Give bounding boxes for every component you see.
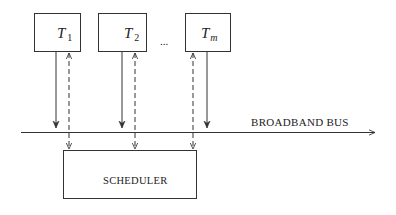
ellipsis: ...	[160, 35, 169, 47]
terminal-tm: Tm	[186, 14, 231, 52]
terminal-t2: T2	[99, 14, 147, 52]
scheduler: SCHEDULER	[64, 151, 197, 199]
scheduler-label: SCHEDULER	[103, 175, 168, 186]
terminal-t1: T1	[35, 14, 81, 52]
scheduler-bus-diagram: T1 T2 ... Tm BROADBAND BUS SCHEDULER	[0, 0, 396, 215]
broadband-bus-label: BROADBAND BUS	[251, 116, 349, 128]
